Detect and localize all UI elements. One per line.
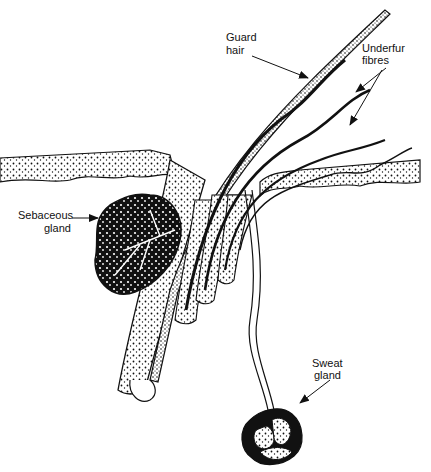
- guard-hair-arrow: [252, 56, 308, 78]
- sweat-duct: [245, 190, 274, 410]
- sweat-gland: [242, 409, 302, 465]
- underfur-label-line2: fibres: [362, 54, 389, 66]
- guard-hair-label-line2: hair: [226, 44, 245, 56]
- underfur-label-line1: Underfur: [362, 42, 405, 54]
- guard-hair-label-line1: Guard: [226, 31, 257, 43]
- sweat-gland-arrow: [300, 380, 330, 403]
- epidermis-left: [0, 150, 175, 182]
- diagram-canvas: Guard hair Underfur fibres Sebaceous gla…: [0, 0, 431, 472]
- sweat-label-line2: gland: [314, 369, 341, 381]
- hair-diagram: Guard hair Underfur fibres Sebaceous gla…: [0, 0, 431, 472]
- sweat-label-line1: Sweat: [312, 357, 343, 369]
- sebaceous-label-line2: gland: [44, 222, 71, 234]
- sebaceous-label-line1: Sebaceous: [18, 209, 74, 221]
